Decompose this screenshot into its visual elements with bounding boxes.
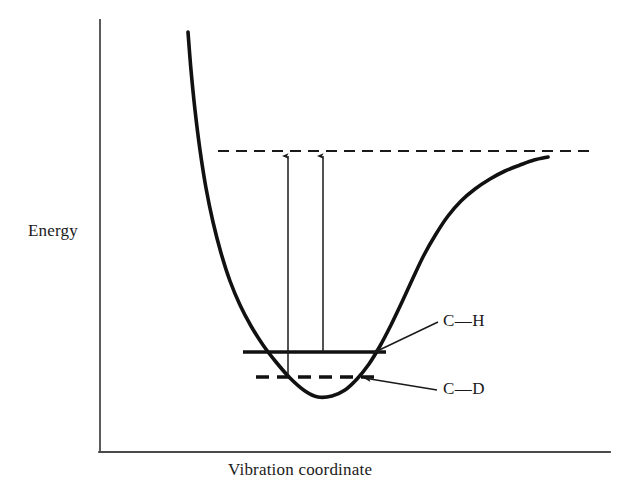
cd-level-label: C—D: [443, 379, 485, 399]
cd-label-leader-line: [364, 378, 437, 390]
y-axis-label: Energy: [28, 221, 78, 241]
morse-potential-curve: [188, 32, 548, 397]
x-axis-label: Vibration coordinate: [228, 460, 372, 480]
ch-level-label: C—H: [443, 311, 485, 331]
axis-group: [99, 20, 610, 452]
potential-energy-diagram: Energy Vibration coordinate C—H C—D: [0, 0, 632, 486]
plot-canvas: [0, 0, 632, 486]
